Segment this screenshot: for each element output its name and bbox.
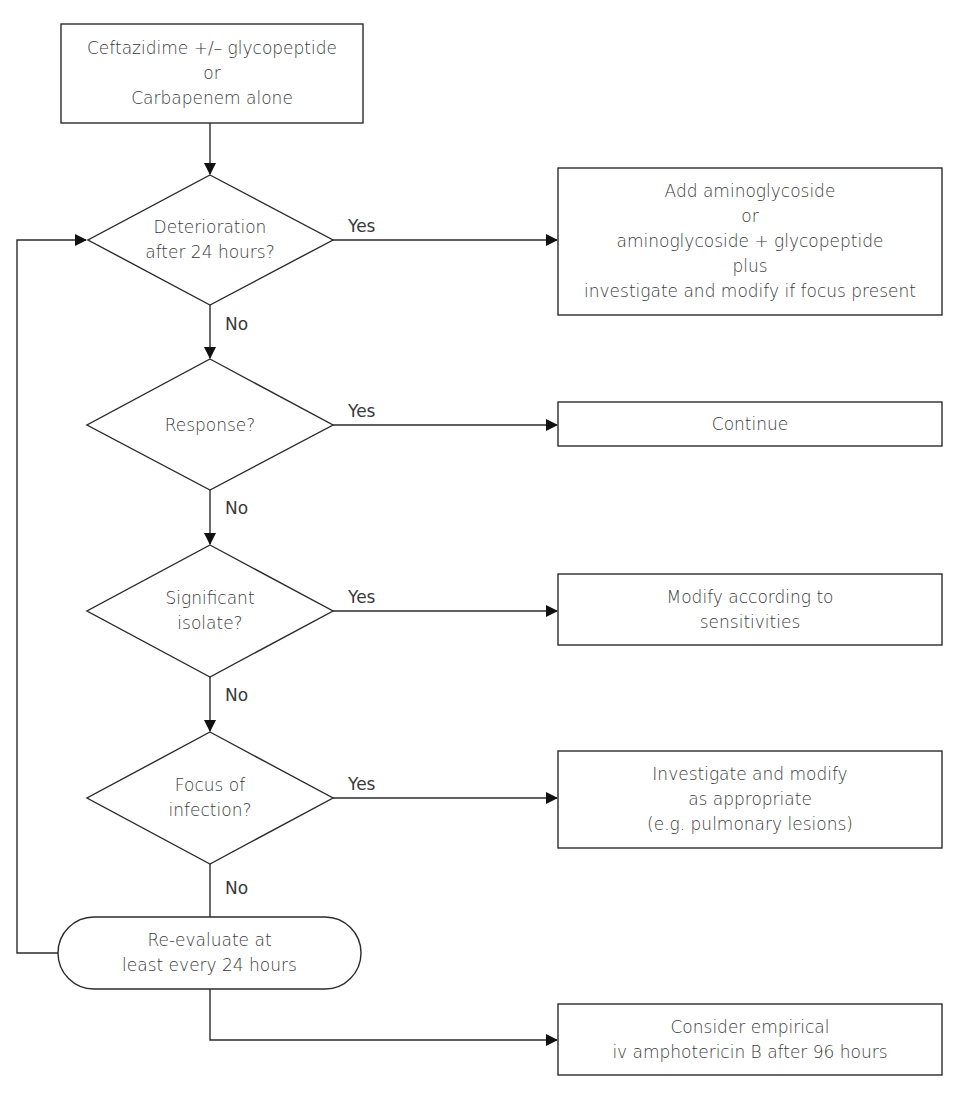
arrow-to-final — [210, 989, 557, 1040]
no-label: No — [225, 314, 248, 334]
final-amphotericin-node: Consider empirical iv amphotericin B aft… — [558, 1004, 942, 1075]
reevaluate-line-1: Re-evaluate at — [147, 928, 271, 953]
decision-3-line-2: isolate? — [177, 611, 242, 636]
start-node: Ceftazidime +/– glycopeptide or Carbapen… — [61, 24, 363, 123]
decision-deterioration: Deterioration after 24 hours? — [100, 200, 320, 280]
no-label: No — [225, 498, 248, 518]
yes-label: Yes — [348, 774, 375, 794]
decision-focus-of-infection: Focus of infection? — [100, 758, 320, 838]
reevaluate-node: Re-evaluate at least every 24 hours — [58, 917, 361, 989]
action-2-line-1: Continue — [712, 412, 788, 437]
arrow-loop-back — [17, 240, 86, 953]
decision-3-line-1: Significant — [165, 586, 254, 611]
yes-label: Yes — [348, 216, 375, 236]
decision-4-line-2: infection? — [169, 798, 252, 823]
start-line-3: Carbapenem alone — [131, 86, 293, 111]
final-line-1: Consider empirical — [670, 1015, 829, 1040]
action-1-line-2: or — [741, 204, 758, 229]
decision-significant-isolate: Significant isolate? — [100, 571, 320, 651]
action-1-line-3: aminoglycoside + glycopeptide — [617, 229, 884, 254]
decision-2-line-1: Response? — [165, 413, 256, 438]
start-line-1: Ceftazidime +/– glycopeptide — [87, 36, 337, 61]
reevaluate-line-2: least every 24 hours — [122, 953, 297, 978]
action-1-line-4: plus — [732, 254, 767, 279]
action-3-line-1: Modify according to — [667, 585, 834, 610]
start-line-2: or — [203, 61, 220, 86]
action-4-line-1: Investigate and modify — [652, 762, 847, 787]
action-1-line-5: investigate and modify if focus present — [584, 279, 916, 304]
action-1-line-1: Add aminoglycoside — [665, 179, 836, 204]
action-investigate-modify: Investigate and modify as appropriate (e… — [558, 751, 942, 848]
action-4-line-2: as appropriate — [688, 787, 812, 812]
action-add-aminoglycoside: Add aminoglycoside or aminoglycoside + g… — [558, 168, 942, 315]
action-continue: Continue — [558, 402, 942, 446]
action-4-line-3: (e.g. pulmonary lesions) — [647, 812, 853, 837]
decision-response: Response? — [100, 400, 320, 450]
action-modify-sensitivities: Modify according to sensitivities — [558, 574, 942, 645]
no-label: No — [225, 685, 248, 705]
decision-4-line-1: Focus of — [175, 773, 245, 798]
yes-label: Yes — [348, 401, 375, 421]
decision-1-line-2: after 24 hours? — [145, 240, 274, 265]
final-line-2: iv amphotericin B after 96 hours — [612, 1040, 887, 1065]
decision-1-line-1: Deterioration — [154, 215, 267, 240]
yes-label: Yes — [348, 587, 375, 607]
no-label: No — [225, 878, 248, 898]
action-3-line-2: sensitivities — [700, 610, 801, 635]
